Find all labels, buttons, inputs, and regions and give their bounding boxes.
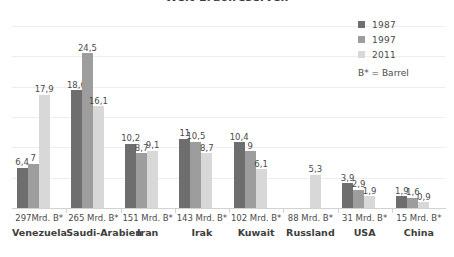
bar-column: 5,3 <box>310 26 321 208</box>
reserve-amount: 15 Mrd. B* <box>392 214 446 224</box>
country-name: Saudi-Arabien <box>66 228 120 239</box>
reserve-amount: 265 Mrd. B* <box>66 214 120 224</box>
legend: 198719972011 B* = Barrel <box>358 18 444 78</box>
bar <box>93 106 104 208</box>
bar-group: 10,496,1 <box>229 26 283 208</box>
bar-value-label: 5,3 <box>309 165 323 174</box>
bar-group: 1110,58,7 <box>175 26 229 208</box>
x-axis-label: 102 Mrd. B*Kuwait <box>229 214 283 239</box>
bar <box>17 168 28 208</box>
country-name: USA <box>338 228 392 239</box>
bar-group: 10,28,79,1 <box>121 26 175 208</box>
bar-value-label: 9 <box>247 142 252 151</box>
reserve-amount: 102 Mrd. B* <box>229 214 283 224</box>
x-axis-label: 31 Mrd. B*USA <box>338 214 392 239</box>
bar <box>136 153 147 208</box>
bar <box>147 151 158 209</box>
x-axis-label: 143 Mrd. B*Irak <box>175 214 229 239</box>
bar-column: 24,5 <box>82 26 93 208</box>
legend-item[interactable]: 1997 <box>358 33 444 46</box>
x-axis-tick <box>338 209 339 213</box>
bar <box>256 169 267 208</box>
legend-swatch-icon <box>358 21 365 28</box>
bar-column: 11 <box>179 26 190 208</box>
bar-column: 8,7 <box>136 26 147 208</box>
bar-value-label: 6,1 <box>254 160 268 169</box>
bar <box>364 196 375 208</box>
legend-swatch-icon <box>358 51 365 58</box>
bar-value-label: 0,9 <box>417 193 431 202</box>
bar-group: 6,4717,9 <box>12 26 66 208</box>
reserve-amount: 151 Mrd. B* <box>121 214 175 224</box>
country-name: Venezuela <box>12 228 66 239</box>
reserve-amount: 88 Mrd. B* <box>283 214 337 224</box>
bar-column <box>299 26 310 208</box>
bar-value-label: 7 <box>30 154 35 163</box>
x-axis-label: 15 Mrd. B*China <box>392 214 446 239</box>
bar <box>39 95 50 208</box>
x-axis-label: 265 Mrd. B*Saudi-Arabien <box>66 214 120 239</box>
bar-column: 10,2 <box>125 26 136 208</box>
bar-column: 9 <box>245 26 256 208</box>
bar-value-label: 9,1 <box>146 141 160 150</box>
x-axis-tick <box>175 209 176 213</box>
country-name: Kuwait <box>229 228 283 239</box>
bar <box>71 90 82 208</box>
bar-column: 7 <box>28 26 39 208</box>
bar <box>201 153 212 208</box>
bar-column: 9,1 <box>147 26 158 208</box>
chart-title: Welt-Erdölreserven <box>0 0 454 4</box>
bar <box>396 196 407 208</box>
bar-column <box>288 26 299 208</box>
bar-value-label: 1,9 <box>363 187 377 196</box>
bar-group: 18,624,516,1 <box>66 26 120 208</box>
bar-column: 16,1 <box>93 26 104 208</box>
x-axis-label: 88 Mrd. B*Russland <box>283 214 337 239</box>
legend-note: B* = Barrel <box>358 68 444 78</box>
bar-column: 17,9 <box>39 26 50 208</box>
x-axis-tick <box>66 209 67 213</box>
x-axis-tick <box>392 209 393 213</box>
legend-swatch-icon <box>358 36 365 43</box>
legend-label: 1997 <box>372 35 396 45</box>
legend-label: 1987 <box>372 20 396 30</box>
bar <box>82 53 93 208</box>
bar-value-label: 17,9 <box>35 85 54 94</box>
country-name: Russland <box>283 228 337 239</box>
x-axis-tick <box>229 209 230 213</box>
reserve-amount: 297Mrd. B* <box>12 214 66 224</box>
x-axis-label: 151 Mrd. B*Iran <box>121 214 175 239</box>
bar <box>418 202 429 208</box>
bar <box>310 175 321 208</box>
legend-item[interactable]: 2011 <box>358 48 444 61</box>
x-axis-tick <box>283 209 284 213</box>
reserve-amount: 31 Mrd. B* <box>338 214 392 224</box>
country-name: China <box>392 228 446 239</box>
bar <box>28 164 39 208</box>
legend-item[interactable]: 1987 <box>358 18 444 31</box>
bar-value-label: 16,1 <box>89 97 108 106</box>
bar-column: 10,5 <box>190 26 201 208</box>
bar-column: 6,1 <box>256 26 267 208</box>
bar-value-label: 8,7 <box>200 144 214 153</box>
bar-column: 18,6 <box>71 26 82 208</box>
bar-column: 8,7 <box>201 26 212 208</box>
chart-container: Welt-Erdölreserven 6,4717,918,624,516,11… <box>0 0 454 257</box>
country-name: Iran <box>121 228 175 239</box>
country-name: Irak <box>175 228 229 239</box>
x-axis-label: 297Mrd. B*Venezuela <box>12 214 66 239</box>
x-axis-tick <box>121 209 122 213</box>
bar <box>234 142 245 208</box>
reserve-amount: 143 Mrd. B* <box>175 214 229 224</box>
bar-group: 5,3 <box>283 26 337 208</box>
legend-label: 2011 <box>372 50 396 60</box>
bar-column: 6,4 <box>17 26 28 208</box>
bar <box>179 139 190 209</box>
bar-column: 10,4 <box>234 26 245 208</box>
bar <box>125 144 136 208</box>
x-axis-labels: 297Mrd. B*Venezuela265 Mrd. B*Saudi-Arab… <box>12 214 446 256</box>
